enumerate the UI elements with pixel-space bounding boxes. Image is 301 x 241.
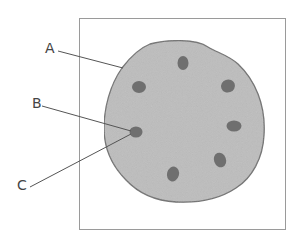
spot (227, 121, 242, 132)
spot (132, 81, 146, 93)
label-a: A (45, 40, 55, 56)
spot-b (130, 127, 143, 138)
label-b: B (32, 95, 42, 111)
cell-diagram: A B C (0, 0, 301, 241)
label-c: C (17, 177, 27, 193)
spot (178, 56, 189, 70)
